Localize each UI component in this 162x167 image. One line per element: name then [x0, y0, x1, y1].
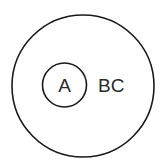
inner-set-label: A	[58, 75, 71, 96]
venn-diagram: A BC	[0, 0, 162, 167]
outer-set-circle	[12, 15, 154, 157]
outer-set-label: BC	[98, 75, 124, 96]
